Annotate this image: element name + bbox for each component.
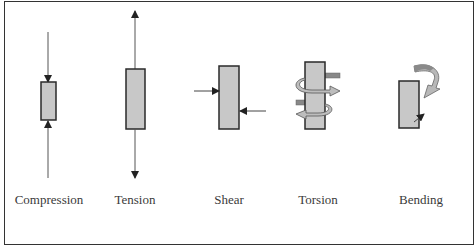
torsion-figure	[296, 62, 340, 129]
torsion-rod-top	[325, 73, 340, 78]
tension-member	[126, 69, 145, 129]
shear-member	[219, 66, 239, 129]
label-torsion: Torsion	[298, 192, 338, 208]
label-shear: Shear	[214, 192, 244, 208]
torsion-member	[305, 62, 325, 129]
shear-figure	[194, 66, 266, 129]
tension-figure	[126, 11, 145, 178]
compression-member	[41, 82, 56, 120]
label-compression: Compression	[15, 192, 84, 208]
label-bending: Bending	[399, 192, 443, 208]
label-tension: Tension	[115, 192, 156, 208]
bending-figure	[399, 64, 440, 128]
compression-figure	[41, 32, 56, 178]
